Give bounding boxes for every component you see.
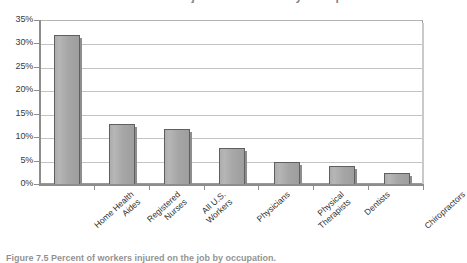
- gridline: [40, 44, 422, 45]
- x-axis-category-label: PhysicalTherapists: [310, 190, 352, 231]
- bar: [219, 148, 245, 185]
- figure-caption: Figure 7.5 Percent of workers injured on…: [6, 253, 436, 263]
- y-axis-tick-label: 0%: [1, 178, 33, 188]
- y-axis-tick-label: 5%: [1, 155, 33, 165]
- y-axis-tick-mark: [34, 43, 39, 44]
- x-axis-tick-mark: [94, 186, 95, 190]
- gridline: [40, 91, 422, 92]
- y-axis-tick-label: 25%: [1, 61, 33, 71]
- y-axis-tick-mark: [34, 90, 39, 91]
- x-axis-tick-mark: [149, 186, 150, 190]
- bar: [54, 35, 80, 185]
- x-axis-category-label: Home HealthAides: [93, 190, 143, 237]
- bar: [109, 124, 135, 185]
- x-axis-category-label: RegisteredNurses: [146, 190, 189, 232]
- x-axis-category-label: All U.S.Workers: [198, 190, 234, 225]
- bar: [329, 166, 355, 185]
- y-axis-tick-label: 15%: [1, 108, 33, 118]
- y-axis-tick-mark: [34, 114, 39, 115]
- x-axis-tick-mark: [368, 186, 369, 190]
- bar: [164, 129, 190, 185]
- plot-area: [39, 20, 423, 184]
- chart-title: Percent of Workers Injured on the Job by…: [0, 0, 439, 3]
- y-axis-tick-mark: [34, 137, 39, 138]
- y-axis-tick-label: 35%: [1, 14, 33, 24]
- x-axis-tick-mark: [313, 186, 314, 190]
- x-axis-category-label: Dentists: [363, 190, 392, 218]
- x-axis-tick-mark: [423, 186, 424, 190]
- y-axis-tick-label: 20%: [1, 84, 33, 94]
- y-axis-line: [39, 20, 41, 185]
- y-axis-tick-mark: [34, 67, 39, 68]
- bar: [274, 162, 300, 185]
- y-axis-tick-mark: [34, 184, 39, 185]
- x-axis-line: [39, 184, 424, 186]
- x-axis-category-label: Physicians: [255, 190, 292, 224]
- gridline: [40, 138, 422, 139]
- gridline: [40, 115, 422, 116]
- y-axis-tick-label: 10%: [1, 131, 33, 141]
- y-axis-tick-label: 30%: [1, 37, 33, 47]
- x-axis-tick-mark: [204, 186, 205, 190]
- x-axis-tick-mark: [258, 186, 259, 190]
- y-axis-tick-labels: 0%5%10%15%20%25%30%35%: [0, 0, 33, 257]
- y-axis-tick-mark: [34, 20, 39, 21]
- y-axis-tick-mark: [34, 161, 39, 162]
- x-axis-category-label: Chiropractors: [423, 190, 467, 231]
- gridline: [40, 68, 422, 69]
